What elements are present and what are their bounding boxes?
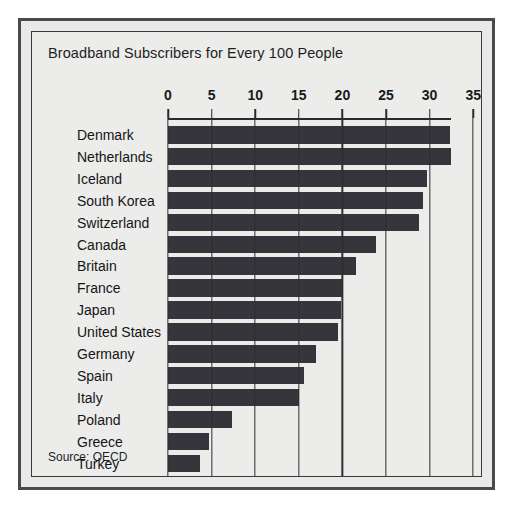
x-tick-mark-35 [472, 109, 474, 118]
category-label-switzerland: Switzerland [77, 215, 149, 231]
gridline-20 [342, 118, 343, 476]
gridline-5 [211, 118, 212, 476]
category-label-japan: Japan [77, 302, 115, 318]
category-label-netherlands: Netherlands [77, 149, 153, 165]
x-tick-mark-20 [342, 109, 344, 118]
category-label-poland: Poland [77, 412, 121, 428]
chart-figure-frame: Broadband Subscribers for Every 100 Peop… [18, 18, 495, 490]
plot-area: 05101520253035 DenmarkNetherlandsIceland… [32, 32, 481, 476]
x-tick-mark-10 [254, 109, 256, 118]
x-tick-mark-15 [298, 109, 300, 118]
x-tick-mark-5 [211, 109, 213, 118]
gridline-0 [167, 118, 168, 476]
gridline-35 [473, 118, 474, 476]
bar-series: DenmarkNetherlandsIcelandSouth KoreaSwit… [32, 32, 481, 476]
category-label-united-states: United States [77, 324, 161, 340]
bar-spain [168, 367, 304, 385]
gridline-25 [385, 118, 386, 476]
category-label-france: France [77, 280, 121, 296]
bar-italy [168, 389, 299, 407]
category-label-britain: Britain [77, 258, 117, 274]
category-label-canada: Canada [77, 237, 126, 253]
gridline-15 [298, 118, 299, 476]
bar-britain [168, 257, 356, 275]
category-label-italy: Italy [77, 390, 103, 406]
category-label-denmark: Denmark [77, 127, 134, 143]
gridline-30 [429, 118, 430, 476]
chart-panel: Broadband Subscribers for Every 100 Peop… [31, 31, 482, 477]
bar-germany [168, 345, 316, 363]
x-tick-mark-25 [385, 109, 387, 118]
category-label-greece: Greece [77, 434, 123, 450]
bar-switzerland [168, 214, 419, 232]
bar-turkey [168, 455, 200, 473]
bar-greece [168, 433, 209, 451]
gridline-10 [255, 118, 256, 476]
bar-united-states [168, 323, 338, 341]
bar-canada [168, 236, 376, 254]
category-label-germany: Germany [77, 346, 135, 362]
bar-poland [168, 411, 232, 429]
category-label-iceland: Iceland [77, 171, 122, 187]
x-tick-mark-30 [429, 109, 431, 118]
category-label-south-korea: South Korea [77, 193, 155, 209]
source-note: Source: OECD [48, 450, 127, 464]
category-label-spain: Spain [77, 368, 113, 384]
x-tick-mark-0 [167, 109, 169, 118]
